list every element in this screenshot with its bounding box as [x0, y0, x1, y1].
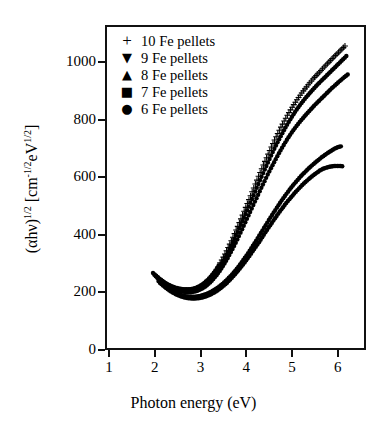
y-axis-title-base: (αhν)	[23, 219, 40, 253]
x-tick-label-2: 2	[143, 358, 167, 376]
legend-row-1: ▼9 Fe pellets	[118, 50, 215, 66]
x-tick-label-5: 5	[280, 358, 304, 376]
legend-label-3: 7 Fe pellets	[136, 84, 208, 100]
x-tick-4	[245, 350, 247, 357]
legend-label-1: 9 Fe pellets	[136, 50, 208, 66]
plus-marker: +	[118, 33, 136, 49]
x-tick-label-1: 1	[97, 358, 121, 376]
x-tick-3	[200, 350, 202, 357]
y-axis-title: (αhν)1/2 [cm-1/2eV1/2]	[23, 69, 41, 309]
legend-row-2: ▲8 Fe pellets	[118, 67, 215, 83]
circle-marker: ●	[118, 101, 136, 117]
y-axis-title-exp2: -1/2	[22, 161, 33, 177]
y-axis-title-exp3: 1/2	[22, 130, 33, 143]
legend-row-4: ●6 Fe pellets	[118, 101, 215, 117]
x-tick-5	[291, 350, 293, 357]
y-tick-label-600: 600	[36, 168, 96, 184]
y-axis-title-unit-ev: eV	[23, 143, 40, 162]
square-marker: ■	[118, 84, 136, 100]
x-tick-6	[337, 350, 339, 357]
y-tick-label-200: 200	[36, 283, 96, 299]
up-triangle-marker: ▲	[118, 67, 136, 83]
x-tick-label-3: 3	[189, 358, 213, 376]
y-tick-600	[98, 176, 105, 178]
y-tick-800	[98, 119, 105, 121]
y-tick-200	[98, 291, 105, 293]
x-tick-2	[154, 350, 156, 357]
x-tick-label-4: 4	[234, 358, 258, 376]
legend: +10 Fe pellets▼9 Fe pellets▲8 Fe pellets…	[118, 33, 215, 118]
legend-row-0: +10 Fe pellets	[118, 33, 215, 49]
y-tick-0	[98, 349, 105, 351]
down-triangle-marker: ▼	[118, 50, 136, 66]
y-tick-label-1000: 1000	[36, 53, 96, 69]
y-tick-1000	[98, 61, 105, 63]
y-tick-label-800: 800	[36, 111, 96, 127]
y-tick-label-400: 400	[36, 226, 96, 242]
x-axis-title: Photon energy (eV)	[0, 394, 387, 412]
y-axis-title-exp1: 1/2	[22, 206, 33, 219]
x-tick-label-6: 6	[326, 358, 350, 376]
y-tick-400	[98, 234, 105, 236]
y-axis-title-unit-open: [cm	[23, 177, 40, 206]
legend-label-0: 10 Fe pellets	[136, 33, 215, 49]
x-tick-1	[108, 350, 110, 357]
figure-canvas: +10 Fe pellets▼9 Fe pellets▲8 Fe pellets…	[0, 0, 387, 436]
y-tick-label-0: 0	[36, 341, 96, 357]
legend-label-4: 6 Fe pellets	[136, 101, 208, 117]
legend-row-3: ■7 Fe pellets	[118, 84, 215, 100]
y-axis-title-unit-close: ]	[23, 125, 40, 130]
legend-label-2: 8 Fe pellets	[136, 67, 208, 83]
